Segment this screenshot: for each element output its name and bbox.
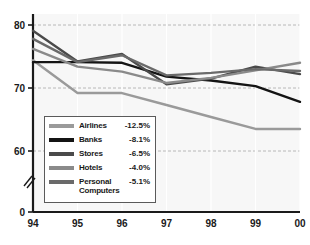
x-tick-label: 00 — [294, 218, 306, 229]
legend-series-change: -12.5% — [120, 121, 150, 130]
legend-series-name: Hotels — [79, 163, 120, 172]
legend-row: Stores-6.5% — [49, 149, 150, 162]
legend-row: Hotels-4.0% — [49, 163, 150, 176]
chart-legend: Airlines-12.5%Banks-8.1%Stores-6.5%Hotel… — [44, 116, 156, 203]
legend-series-name: Banks — [79, 135, 120, 144]
y-tick-label: 0 — [19, 207, 25, 218]
legend-row: Banks-8.1% — [49, 135, 150, 148]
legend-series-name: Personal Computers — [79, 177, 120, 195]
legend-swatch-icon — [49, 166, 74, 170]
y-tick-labels: 8070600 — [14, 20, 26, 218]
legend-swatch-icon — [49, 124, 74, 128]
legend-series-change: -5.1% — [120, 177, 150, 186]
line-chart: 8070600 94959697989900 Airlines-12.5%Ban… — [0, 0, 310, 245]
legend-swatch-icon — [49, 152, 74, 156]
legend-row: Personal Computers-5.1% — [49, 177, 150, 197]
x-tick-label: 94 — [27, 218, 39, 229]
legend-series-change: -6.5% — [120, 149, 150, 158]
y-tick-label: 70 — [14, 83, 26, 94]
legend-series-change: -8.1% — [120, 135, 150, 144]
y-tick-label: 80 — [14, 20, 26, 31]
legend-row: Airlines-12.5% — [49, 121, 150, 134]
legend-swatch-icon — [49, 180, 74, 184]
y-tick-label: 60 — [14, 146, 26, 157]
x-tick-label: 95 — [72, 218, 84, 229]
legend-series-change: -4.0% — [120, 163, 150, 172]
x-tick-labels: 94959697989900 — [27, 218, 306, 229]
legend-series-name: Stores — [79, 149, 120, 158]
x-tick-label: 99 — [250, 218, 262, 229]
legend-series-name: Airlines — [79, 121, 120, 130]
x-tick-label: 98 — [205, 218, 217, 229]
legend-swatch-icon — [49, 138, 74, 142]
x-tick-label: 97 — [161, 218, 173, 229]
x-tick-label: 96 — [116, 218, 128, 229]
